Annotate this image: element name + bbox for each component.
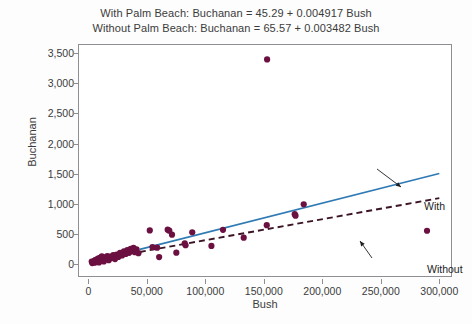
x-tick-label: 100,000 (186, 285, 224, 297)
annotation-with: With (424, 200, 445, 212)
x-tick-mark (439, 279, 440, 284)
x-tick-mark (88, 279, 89, 284)
scatter-canvas (79, 45, 451, 276)
data-point (189, 229, 195, 235)
data-point (154, 245, 160, 251)
annotation-without: Without (427, 263, 463, 275)
chart-page: With Palm Beach: Buchanan = 45.29 + 0.00… (0, 0, 472, 324)
x-tick-mark (147, 279, 148, 284)
x-tick-label: 300,000 (420, 285, 458, 297)
data-point (208, 243, 214, 249)
x-tick-mark (322, 279, 323, 284)
x-tick-label: 50,000 (131, 285, 163, 297)
x-tick-label: 0 (85, 285, 91, 297)
x-tick-label: 150,000 (245, 285, 283, 297)
data-point (424, 228, 430, 234)
annotation-arrows (360, 169, 401, 258)
data-point (156, 254, 162, 260)
chart-title-block: With Palm Beach: Buchanan = 45.29 + 0.00… (0, 6, 472, 36)
data-point (147, 227, 153, 233)
x-tick-mark (381, 279, 382, 284)
data-point (220, 227, 226, 233)
data-point (292, 213, 298, 219)
data-point (173, 250, 179, 256)
data-point (241, 235, 247, 241)
x-tick-label: 250,000 (362, 285, 400, 297)
data-point (301, 201, 307, 207)
arrow-without-head (360, 241, 365, 246)
x-tick-mark (205, 279, 206, 284)
plot-area: With Without (78, 44, 452, 277)
x-tick-label: 200,000 (303, 285, 341, 297)
title-line-without: Without Palm Beach: Buchanan = 65.57 + 0… (0, 21, 472, 36)
y-axis-tickmarks (0, 44, 78, 277)
title-line-with: With Palm Beach: Buchanan = 45.29 + 0.00… (0, 6, 472, 21)
regression-line-with (140, 173, 439, 249)
x-axis-label: Bush (78, 298, 452, 310)
data-point (169, 232, 175, 238)
x-axis-ticklabels: 050,000100,000150,000200,000250,000300,0… (78, 279, 452, 299)
data-point (264, 56, 270, 62)
data-point (264, 222, 270, 228)
scatter-points (89, 56, 430, 266)
data-point (135, 250, 141, 256)
regression-lines (140, 173, 439, 252)
x-tick-mark (264, 279, 265, 284)
data-point (182, 242, 188, 248)
